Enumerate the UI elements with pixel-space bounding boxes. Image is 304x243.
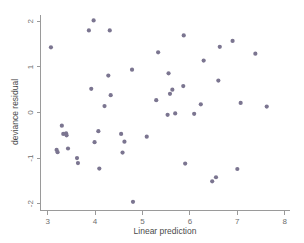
data-point	[130, 68, 134, 72]
x-axis-title: Linear prediction	[134, 226, 197, 236]
data-point	[235, 167, 239, 171]
data-point	[119, 132, 123, 136]
data-point	[49, 45, 53, 49]
scatter-plot-figure: 345678 210-1-2 Linear prediction devianc…	[0, 0, 304, 243]
data-point	[230, 39, 234, 43]
data-point	[156, 50, 160, 54]
y-tick-label: 1	[26, 64, 35, 69]
plot-area	[49, 18, 269, 204]
data-point	[210, 179, 214, 183]
data-point	[102, 104, 106, 108]
x-axis: 345678	[41, 211, 290, 226]
data-point	[265, 104, 269, 108]
data-point	[92, 140, 96, 144]
data-point	[192, 112, 196, 116]
x-tick-label: 8	[283, 217, 288, 226]
data-point	[145, 135, 149, 139]
y-axis-title: deviance residual	[10, 79, 20, 145]
y-tick-label: -1	[26, 154, 35, 162]
data-point	[66, 146, 70, 150]
y-axis: 210-1-2	[26, 15, 41, 211]
data-point	[168, 92, 172, 96]
data-point	[97, 166, 101, 170]
x-tick-label: 6	[188, 217, 193, 226]
data-point	[183, 161, 187, 165]
data-point	[218, 45, 222, 49]
chart-canvas: 345678 210-1-2 Linear prediction devianc…	[0, 0, 304, 243]
data-point	[214, 175, 218, 179]
data-point	[109, 93, 113, 97]
x-tick-label: 7	[235, 217, 240, 226]
x-tick-label: 4	[93, 217, 98, 226]
data-point	[239, 101, 243, 105]
data-point	[60, 124, 64, 128]
x-tick-label: 3	[45, 217, 50, 226]
data-point	[106, 73, 110, 77]
data-point	[202, 58, 206, 62]
data-point	[64, 133, 68, 137]
data-point	[76, 161, 80, 165]
data-point	[120, 151, 124, 155]
data-point	[92, 18, 96, 22]
y-tick-label: -2	[26, 200, 35, 208]
data-point	[166, 113, 170, 117]
y-tick-label: 2	[26, 19, 35, 24]
data-point	[75, 156, 79, 160]
data-point	[154, 98, 158, 102]
data-point	[166, 71, 170, 75]
data-point	[131, 200, 135, 204]
data-point	[89, 87, 93, 91]
data-point	[181, 84, 185, 88]
data-point	[96, 129, 100, 133]
y-tick-label: 0	[26, 110, 35, 115]
data-point	[253, 52, 257, 56]
data-point	[199, 102, 203, 106]
data-point	[173, 111, 177, 115]
data-point	[182, 33, 186, 37]
data-point	[108, 28, 112, 32]
x-tick-label: 5	[140, 217, 145, 226]
data-point	[87, 28, 91, 32]
data-point	[170, 88, 174, 92]
data-point	[122, 140, 126, 144]
data-point	[216, 78, 220, 82]
data-point	[55, 150, 59, 154]
